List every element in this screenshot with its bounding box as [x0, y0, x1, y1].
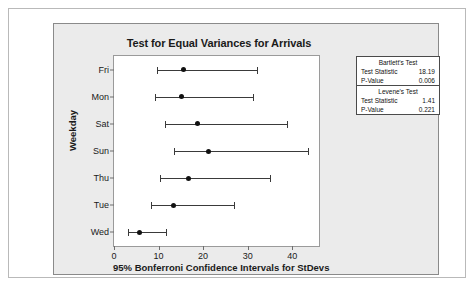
x-axis-title: 95% Bonferroni Confidence Intervals for … — [113, 262, 320, 273]
x-tick-mark — [292, 246, 293, 250]
ci-line — [151, 205, 234, 206]
x-tick-label-0: 0 — [111, 251, 116, 261]
minitab-graph-panel: Test for Equal Variances for Arrivals We… — [53, 23, 439, 275]
x-tick-label-20: 20 — [198, 251, 208, 261]
ci-upper-cap — [253, 94, 254, 101]
ci-upper-cap — [308, 148, 309, 155]
y-tick-label-tue: Tue — [94, 200, 109, 210]
levene-test-statistic-label: Test Statistic — [361, 97, 397, 104]
ci-line — [165, 124, 288, 125]
plot-area: FriMonSatSunThuTueWed 010203040 — [113, 55, 320, 247]
ci-upper-cap — [287, 121, 288, 128]
x-tick-mark — [114, 246, 115, 250]
levene-p-value-row: P-Value 0.221 — [357, 105, 439, 114]
chart-title: Test for Equal Variances for Arrivals — [54, 37, 384, 49]
x-tick-mark — [248, 246, 249, 250]
statistics-legend-box: Bartlett's Test Test Statistic 18.19 P-V… — [356, 56, 440, 115]
levene-test-statistic-row: Test Statistic 1.41 — [357, 96, 439, 105]
ci-lower-cap — [160, 175, 161, 182]
ci-point-estimate — [186, 176, 191, 181]
y-tick-mark — [110, 96, 114, 97]
bartlett-test-section: Bartlett's Test Test Statistic 18.19 P-V… — [357, 57, 439, 85]
y-tick-mark — [110, 151, 114, 152]
bartlett-test-statistic-row: Test Statistic 18.19 — [357, 67, 439, 76]
ci-line — [155, 97, 252, 98]
ci-upper-cap — [270, 175, 271, 182]
ci-upper-cap — [234, 202, 235, 209]
ci-point-estimate — [181, 67, 186, 72]
y-tick-label-sun: Sun — [93, 146, 109, 156]
bartlett-p-value-value: 0.006 — [419, 77, 435, 84]
levene-test-section: Levene's Test Test Statistic 1.41 P-Valu… — [357, 85, 439, 114]
bartlett-test-statistic-value: 18.19 — [419, 68, 435, 75]
levene-test-header: Levene's Test — [357, 86, 439, 96]
y-tick-label-fri: Fri — [99, 65, 110, 75]
y-tick-mark — [110, 205, 114, 206]
y-tick-mark — [110, 232, 114, 233]
x-tick-label-40: 40 — [287, 251, 297, 261]
ci-point-estimate — [171, 203, 176, 208]
levene-p-value-label: P-Value — [361, 106, 384, 113]
bartlett-p-value-label: P-Value — [361, 77, 384, 84]
ci-lower-cap — [165, 121, 166, 128]
ci-point-estimate — [179, 94, 184, 99]
y-tick-label-mon: Mon — [91, 92, 109, 102]
y-tick-mark — [110, 123, 114, 124]
ci-line — [160, 178, 269, 179]
x-tick-mark — [159, 246, 160, 250]
y-tick-label-thu: Thu — [93, 173, 109, 183]
y-tick-mark — [110, 178, 114, 179]
ci-lower-cap — [128, 229, 129, 236]
ci-point-estimate — [137, 230, 142, 235]
outer-page-border: Test for Equal Variances for Arrivals We… — [8, 8, 466, 278]
bartlett-test-header: Bartlett's Test — [357, 57, 439, 67]
y-tick-label-sat: Sat — [95, 119, 109, 129]
screenshot-page: Test for Equal Variances for Arrivals We… — [0, 0, 476, 291]
ci-line — [128, 232, 165, 233]
levene-test-statistic-value: 1.41 — [422, 97, 435, 104]
levene-p-value-value: 0.221 — [419, 106, 435, 113]
ci-lower-cap — [155, 94, 156, 101]
x-tick-mark — [203, 246, 204, 250]
ci-lower-cap — [157, 67, 158, 74]
ci-point-estimate — [206, 149, 211, 154]
ci-line — [157, 70, 257, 71]
y-tick-label-wed: Wed — [91, 227, 109, 237]
bartlett-p-value-row: P-Value 0.006 — [357, 76, 439, 85]
y-tick-mark — [110, 69, 114, 70]
ci-lower-cap — [151, 202, 152, 209]
ci-lower-cap — [174, 148, 175, 155]
x-tick-label-30: 30 — [243, 251, 253, 261]
y-axis-title: Weekday — [67, 110, 78, 151]
ci-point-estimate — [195, 121, 200, 126]
ci-line — [174, 151, 308, 152]
x-tick-label-10: 10 — [154, 251, 164, 261]
ci-upper-cap — [257, 67, 258, 74]
ci-upper-cap — [166, 229, 167, 236]
bartlett-test-statistic-label: Test Statistic — [361, 68, 397, 75]
